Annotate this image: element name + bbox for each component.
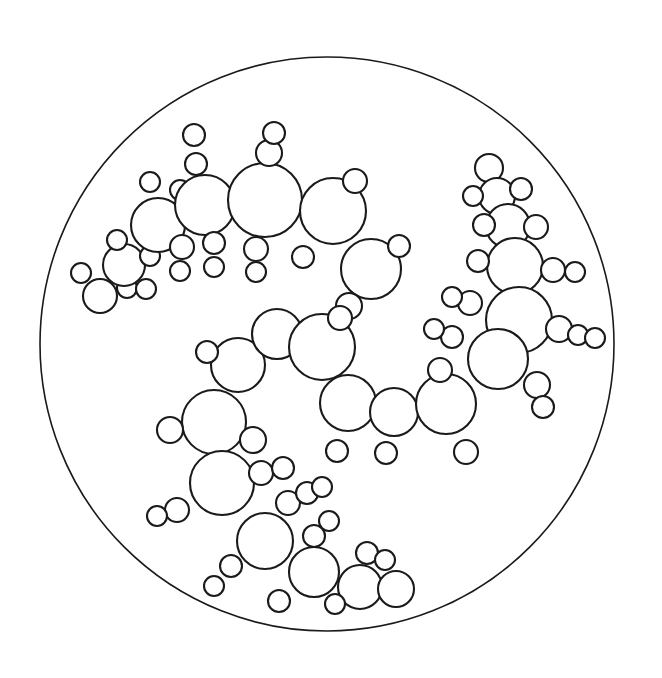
packed-circle	[268, 590, 290, 612]
packed-circle	[424, 319, 444, 339]
packed-circle	[585, 328, 605, 348]
packed-circle	[140, 172, 160, 192]
packed-circle	[83, 279, 117, 313]
packed-circle	[328, 306, 352, 330]
packed-circle	[378, 571, 414, 607]
packed-circle	[416, 374, 476, 434]
packed-circle	[325, 594, 345, 614]
packed-circle	[326, 440, 348, 462]
packed-circle	[157, 417, 183, 443]
packed-circle	[292, 246, 314, 268]
packed-circle	[524, 372, 550, 398]
packed-circle	[375, 550, 395, 570]
packed-circle	[185, 153, 207, 175]
packed-circle	[237, 513, 293, 569]
figure-root	[0, 0, 662, 678]
packed-circle	[467, 250, 489, 272]
packed-circle	[320, 375, 376, 431]
packed-circle	[196, 341, 218, 363]
packed-circle	[510, 178, 532, 200]
packed-circle	[183, 124, 205, 146]
packed-circle	[204, 576, 224, 596]
packed-circle	[468, 329, 528, 389]
packed-circle	[182, 390, 246, 454]
packed-circle	[170, 235, 194, 259]
packed-circle	[524, 215, 548, 239]
packed-circle	[249, 461, 273, 485]
packed-circle	[240, 427, 266, 453]
packed-circle	[532, 396, 554, 418]
packed-circle	[170, 261, 190, 281]
packed-circle	[190, 451, 254, 515]
packed-circle	[175, 175, 235, 235]
packed-circle	[204, 257, 224, 277]
packed-circle	[370, 388, 418, 436]
packed-circle	[103, 244, 145, 286]
packed-circle	[428, 358, 452, 382]
packed-circle	[442, 287, 462, 307]
packed-circle	[463, 186, 483, 206]
packed-circle	[343, 169, 367, 193]
packed-circle	[107, 230, 127, 250]
packed-circle	[319, 511, 339, 531]
packed-circle	[71, 263, 91, 283]
packed-circle	[165, 498, 189, 522]
packed-circle	[246, 262, 266, 282]
packed-circle	[220, 555, 242, 577]
packed-circle	[541, 258, 565, 282]
packed-circle	[147, 506, 167, 526]
packed-circle	[375, 442, 397, 464]
packed-circle	[136, 279, 156, 299]
packed-circle	[565, 262, 585, 282]
packed-circle	[473, 214, 495, 236]
packed-circle	[454, 440, 478, 464]
packed-circle	[203, 232, 225, 254]
packed-circle	[244, 237, 268, 261]
packed-circle	[263, 122, 285, 144]
packed-circle	[228, 163, 302, 237]
packed-circle	[487, 238, 543, 294]
packed-circle	[312, 477, 332, 497]
packed-circle	[272, 457, 294, 479]
packed-circle	[289, 547, 339, 597]
circle-packing-figure	[0, 0, 662, 678]
packed-circle	[388, 235, 410, 257]
